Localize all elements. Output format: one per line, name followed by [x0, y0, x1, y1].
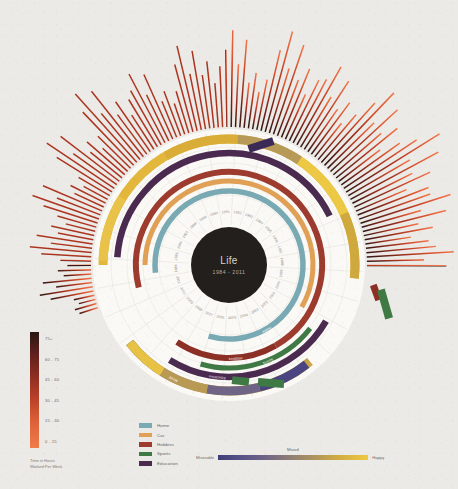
category-legend-item: Sports — [139, 449, 178, 458]
hours-legend-caption: Time in Hours Worked Per Week — [30, 458, 62, 470]
center-subtitle-text: 1984 - 2011 — [184, 269, 274, 275]
hours-tick: 45 - 60 — [45, 377, 59, 382]
radial-infographic: HomeCarHobbiesSportsEducationMood 198419… — [0, 0, 458, 489]
category-label: Education — [157, 461, 178, 466]
category-label: Sports — [157, 451, 171, 456]
category-label: Home — [157, 423, 169, 428]
category-label: Hobbies — [157, 442, 174, 447]
category-swatch — [139, 442, 152, 447]
category-swatch — [139, 433, 152, 438]
year-label: 1998 — [280, 257, 285, 265]
hours-caption-line-2: Worked Per Week — [30, 464, 62, 470]
year-label: 1984 — [174, 264, 179, 272]
mood-low-label: Miserable — [196, 455, 214, 460]
category-swatch — [139, 452, 152, 457]
category-legend-item: Hobbies — [139, 440, 178, 449]
year-label: 2005 — [228, 316, 236, 321]
hours-tick: 15 - 30 — [45, 418, 59, 423]
hours-tick: 30 - 45 — [45, 398, 59, 403]
mood-legend-title: Mood — [218, 447, 368, 452]
center-title-block: Life 1984 - 2011 — [184, 255, 274, 275]
hours-tick: 0 - 15 — [45, 439, 57, 444]
mood-high-label: Happy — [372, 455, 384, 460]
hours-gradient-bar — [30, 332, 39, 448]
category-legend-item: Home — [139, 421, 178, 430]
mood-gradient-bar — [218, 455, 368, 460]
category-swatch — [139, 461, 152, 466]
category-swatch — [139, 423, 152, 428]
center-title-text: Life — [184, 255, 274, 266]
category-legend-item: Car — [139, 430, 178, 439]
mood-segment — [207, 387, 259, 391]
category-legend: HomeCarHobbiesSportsEducation — [139, 421, 178, 468]
poster-canvas: HomeCarHobbiesSportsEducationMood 198419… — [0, 0, 458, 489]
event-chip — [377, 288, 393, 319]
year-label: 1991 — [221, 210, 229, 215]
mood-legend: Mood Miserable Happy — [196, 447, 426, 460]
category-legend-item: Education — [139, 459, 178, 468]
mood-legend-row: Miserable Happy — [196, 455, 426, 460]
hours-tick: 60 - 75 — [45, 357, 59, 362]
category-label: Car — [157, 433, 165, 438]
hours-tick: 75+ — [45, 336, 53, 341]
